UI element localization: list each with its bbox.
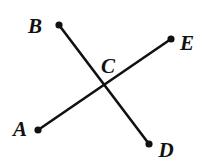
point-label-d: D [157, 138, 173, 162]
vertex-dot-a [34, 126, 41, 133]
vertex-dot-e [167, 35, 174, 42]
geometry-figure: A B C D E [0, 0, 202, 164]
vertex-dot-b [55, 21, 62, 28]
point-label-e: E [179, 31, 194, 55]
vertex-dot-d [145, 140, 152, 147]
geometry-canvas: A B C D E [0, 0, 202, 164]
point-label-c: C [101, 54, 116, 78]
point-label-b: B [27, 14, 42, 38]
point-label-a: A [11, 117, 27, 141]
